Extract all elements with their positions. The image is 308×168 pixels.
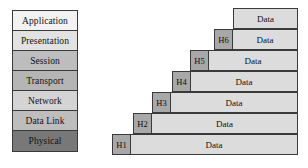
encapsulation-staircase: DataH6DataH5DataH4DataH3DataH2DataH1Data bbox=[0, 0, 308, 168]
pdu-row-h5: H5Data bbox=[190, 50, 298, 71]
pdu-data-payload: Data bbox=[171, 92, 298, 113]
pdu-header-h5: H5 bbox=[190, 50, 209, 71]
pdu-data-payload: Data bbox=[152, 113, 298, 134]
pdu-header-h6: H6 bbox=[214, 29, 233, 50]
pdu-row-h6: H6Data bbox=[214, 29, 298, 50]
pdu-row-h1: H1Data bbox=[112, 134, 298, 155]
pdu-data-payload: Data bbox=[209, 50, 298, 71]
pdu-header-h4: H4 bbox=[172, 71, 191, 92]
pdu-row-h2: H2Data bbox=[133, 113, 298, 134]
pdu-data-payload: Data bbox=[191, 71, 298, 92]
pdu-row-data-only: Data bbox=[233, 8, 298, 29]
pdu-row-h4: H4Data bbox=[172, 71, 298, 92]
pdu-data-payload: Data bbox=[131, 134, 298, 155]
osi-encapsulation-diagram: ApplicationPresentationSessionTransportN… bbox=[0, 0, 308, 168]
pdu-header-h2: H2 bbox=[133, 113, 152, 134]
pdu-header-h1: H1 bbox=[112, 134, 131, 155]
pdu-data-payload: Data bbox=[233, 29, 298, 50]
pdu-data-payload: Data bbox=[233, 8, 298, 29]
pdu-header-h3: H3 bbox=[152, 92, 171, 113]
pdu-row-h3: H3Data bbox=[152, 92, 298, 113]
